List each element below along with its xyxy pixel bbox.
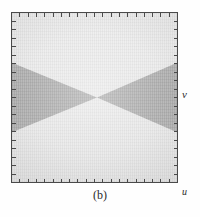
figure-panel-b: v u (b) <box>0 0 200 217</box>
figure-caption: (b) <box>0 188 200 203</box>
plot-frame <box>11 12 178 183</box>
axis-label-v: v <box>182 88 187 100</box>
